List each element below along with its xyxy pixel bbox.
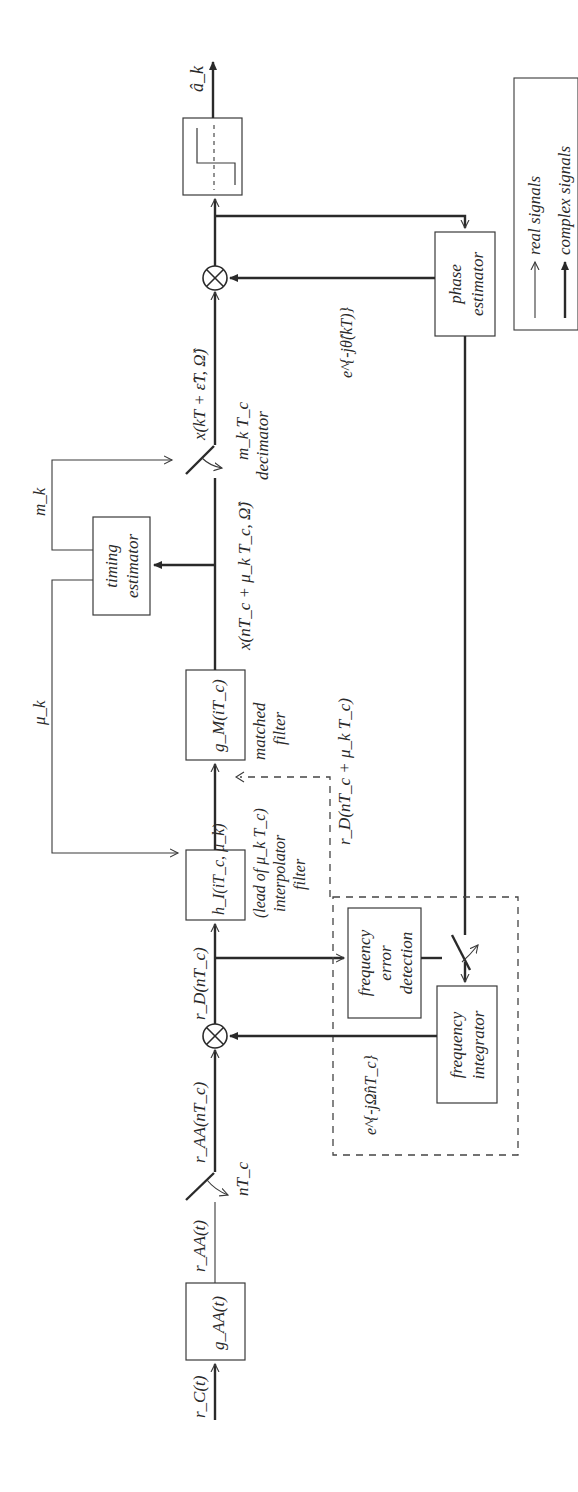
legend-complex-label: complex signals (555, 146, 574, 255)
label-mu: μ_k (30, 700, 49, 726)
sampler-arrow-icon (207, 1180, 228, 1195)
decimator-switch-icon (186, 446, 214, 474)
freq-integrator-label-1: frequency (447, 1011, 466, 1078)
label-decimator: decimator (253, 411, 272, 480)
matched-caption-1: matched (250, 702, 269, 760)
interpolator-filter-label: h_I(iT_c, μ_k) (210, 823, 228, 915)
label-output: â_k (187, 65, 207, 92)
label-decimator-clock: m_k T_c (233, 401, 252, 460)
label-rd: r_D(nT_c) (190, 947, 209, 1020)
label-decimated: x(kT + ε̂T, Ω̂) (190, 347, 209, 441)
decimator-arrow-icon (202, 458, 222, 468)
label-raa-n: r_AA(nT_c) (190, 1081, 209, 1163)
matched-filter-label: g_M(iT_c) (209, 679, 228, 752)
label-m: m_k (30, 487, 49, 516)
label-freq-correction: e^{-jΩ̂nT_c} (362, 1054, 380, 1135)
label-phase-correction: e^{-jθ̂(kT)} (338, 306, 356, 378)
frequency-switch-arrow-icon (462, 945, 478, 962)
phase-estimator-label-1: phase (446, 264, 465, 305)
label-rd-interp: r_D(nT_c + μ_k T_c) (335, 698, 354, 845)
legend-real-label: real signals (525, 175, 544, 255)
to-phase-estimator-line (215, 216, 465, 228)
interpolator-caption-3: filter (291, 858, 309, 890)
label-sampler-clock: nT_c (233, 1162, 252, 1196)
frequency-switch-icon (452, 935, 470, 970)
receiver-block-diagram: r_C(t) g_AA(t) r_AA(t) nT_c r_AA(nT_c) r… (0, 0, 578, 1492)
mu-feedback-line (52, 580, 178, 853)
label-rc: r_C(t) (190, 1375, 209, 1418)
matched-caption-2: filter (270, 712, 289, 745)
phase-estimator-label-2: estimator (468, 252, 487, 317)
label-matched-out: x(nT_c + μ_k T_c, Ω̂) (235, 501, 254, 651)
freq-error-label-3: detection (397, 932, 416, 994)
frequency-integrator-block (437, 986, 497, 1103)
freq-error-label-1: frequency (355, 929, 374, 996)
timing-estimator-label-1: timing (102, 544, 121, 587)
legend: real signals complex signals (514, 78, 578, 330)
decision-block (183, 118, 242, 195)
label-raa-t: r_AA(t) (190, 1220, 209, 1272)
phase-mixer-icon (203, 266, 227, 290)
interpolator-caption-1: (lead of μ_k T_c) (251, 808, 269, 918)
timing-estimator-label-2: estimator (123, 534, 142, 599)
sampler-switch-icon (186, 1173, 214, 1200)
freq-integrator-label-2: integrator (469, 1010, 488, 1079)
antialias-filter-label: g_AA(t) (209, 1296, 228, 1350)
frequency-mixer-icon (203, 1024, 227, 1048)
interpolator-caption-2: interpolator (271, 834, 289, 912)
freq-error-label-2: error (376, 945, 395, 981)
